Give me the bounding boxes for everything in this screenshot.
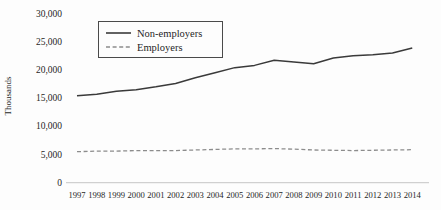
y-axis-title: Thousands: [3, 76, 13, 115]
employers-line: [77, 149, 412, 152]
y-tick-label: 25,000: [36, 37, 62, 47]
y-tick-label: 5,000: [41, 150, 63, 160]
x-tick-label: 2006: [246, 190, 264, 200]
x-tick-label: 2004: [206, 190, 224, 200]
x-tick-label: 2013: [384, 190, 401, 200]
y-axis-tick-labels: 05,00010,00015,00020,00025,00030,000: [36, 9, 62, 188]
x-tick-label: 1998: [88, 190, 105, 200]
x-tick-label: 2003: [187, 190, 204, 200]
x-tick-label: 1999: [108, 190, 125, 200]
legend: Non-employers Employers: [99, 22, 223, 58]
legend-label-non-employers: Non-employers: [137, 28, 202, 39]
y-tick-label: 30,000: [36, 9, 62, 19]
line-chart: Thousands 05,00010,00015,00020,00025,000…: [0, 0, 441, 210]
x-tick-label: 2011: [345, 190, 362, 200]
chart-figure: Thousands 05,00010,00015,00020,00025,000…: [0, 0, 441, 210]
x-tick-label: 2007: [266, 190, 284, 200]
y-tick-label: 10,000: [36, 121, 62, 131]
x-tick-label: 2008: [285, 190, 302, 200]
x-tick-label: 2012: [364, 190, 381, 200]
data-series-lines: [77, 48, 412, 152]
x-tick-label: 2002: [167, 190, 184, 200]
y-tick-label: 20,000: [36, 65, 62, 75]
y-tick-label: 0: [57, 178, 62, 188]
x-tick-label: 2009: [305, 190, 322, 200]
legend-label-employers: Employers: [137, 42, 183, 53]
x-tick-label: 2000: [128, 190, 145, 200]
x-tick-label: 2001: [147, 190, 164, 200]
x-tick-label: 2014: [404, 190, 422, 200]
y-tick-label: 15,000: [36, 93, 62, 103]
x-tick-label: 1997: [68, 190, 86, 200]
x-axis-tick-labels: 1997199819992000200120022003200420052006…: [68, 190, 421, 200]
x-tick-label: 2005: [226, 190, 243, 200]
x-tick-label: 2010: [325, 190, 342, 200]
